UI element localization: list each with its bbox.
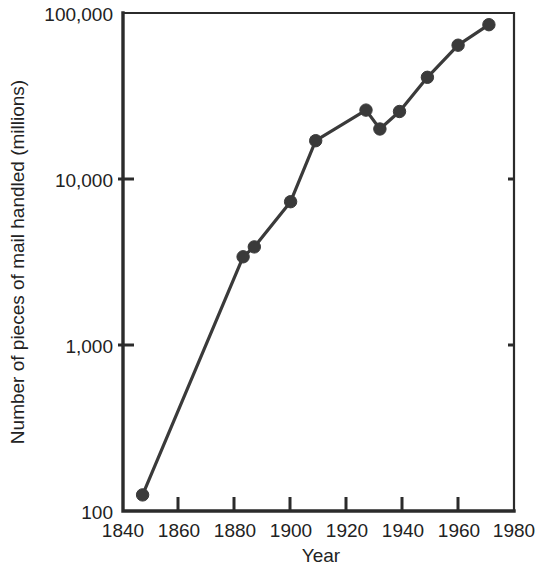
data-series-markers bbox=[136, 19, 495, 502]
data-point bbox=[421, 71, 433, 83]
y-tick-label-10000: 10,000 bbox=[55, 170, 113, 191]
chart-container: 100,000 10,000 1,000 100 1840 1860 1880 … bbox=[0, 0, 546, 566]
data-point bbox=[483, 19, 495, 31]
x-tick-label-1880: 1880 bbox=[214, 520, 256, 541]
y-tick-label-1000: 1,000 bbox=[65, 336, 113, 357]
data-point bbox=[237, 251, 249, 263]
y-tick-label-100000: 100,000 bbox=[44, 4, 113, 25]
data-point bbox=[136, 489, 148, 501]
x-tick-label-1840: 1840 bbox=[102, 520, 144, 541]
data-point bbox=[248, 241, 260, 253]
data-series-line bbox=[143, 25, 489, 495]
y-axis-title: Number of pieces of mail handled (millio… bbox=[7, 80, 28, 444]
x-axis-title: Year bbox=[302, 545, 341, 566]
data-point bbox=[452, 39, 464, 51]
x-tick-label-1960: 1960 bbox=[438, 520, 480, 541]
data-point bbox=[284, 196, 296, 208]
x-tick-label-1940: 1940 bbox=[382, 520, 424, 541]
x-tick-label-1920: 1920 bbox=[326, 520, 368, 541]
data-point bbox=[310, 135, 322, 147]
x-axis-ticks bbox=[178, 497, 458, 511]
mail-volume-line-chart: 100,000 10,000 1,000 100 1840 1860 1880 … bbox=[0, 0, 546, 566]
x-tick-label-1860: 1860 bbox=[158, 520, 200, 541]
data-point bbox=[374, 123, 386, 135]
plot-frame bbox=[123, 13, 514, 511]
y-axis-ticks bbox=[118, 179, 514, 345]
data-point bbox=[360, 104, 372, 116]
data-point bbox=[393, 105, 405, 117]
x-tick-label-1900: 1900 bbox=[270, 520, 312, 541]
x-tick-label-1980: 1980 bbox=[493, 520, 535, 541]
